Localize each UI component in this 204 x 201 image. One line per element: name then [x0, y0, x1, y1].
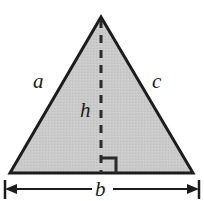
triangle-figure: a c h b	[0, 0, 204, 201]
label-side-c: c	[152, 71, 161, 92]
dimension-left-arrowhead	[5, 184, 17, 194]
dimension-right-arrowhead	[187, 184, 199, 194]
label-height-h: h	[80, 100, 91, 121]
label-side-a: a	[33, 71, 44, 92]
triangle-diagram-svg	[0, 0, 204, 201]
label-base-b: b	[95, 179, 106, 200]
